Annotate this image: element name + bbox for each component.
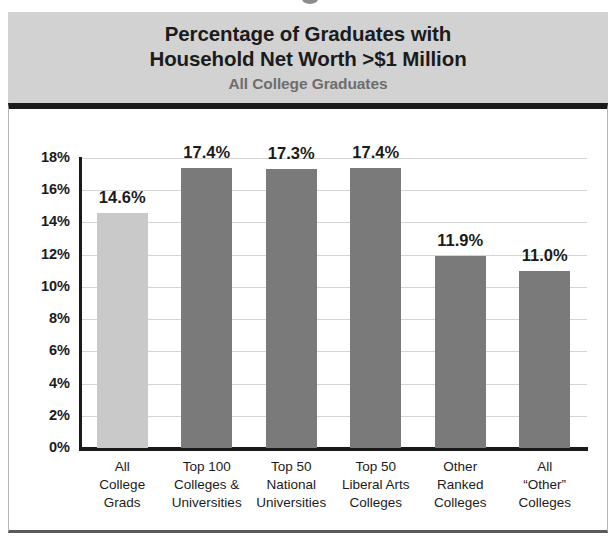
bar[interactable]: 11.9% — [435, 158, 486, 448]
chart-title-line2: Household Net Worth >$1 Million — [149, 47, 466, 70]
y-axis-tick-label: 18% — [8, 149, 70, 165]
y-axis-tick-label: 0% — [8, 439, 70, 455]
bar-value-label: 17.4% — [321, 143, 431, 162]
y-axis-tick-label: 12% — [8, 246, 70, 262]
x-axis-category-label: All “Other” Colleges — [489, 458, 601, 511]
bar[interactable]: 14.6% — [97, 158, 148, 448]
cropped-glyph-artifact — [302, 0, 318, 4]
chart-subtitle: All College Graduates — [229, 75, 388, 93]
bars-layer: 14.6%17.4%17.3%17.4%11.9%11.0% — [80, 158, 587, 448]
y-axis-tick-label: 8% — [8, 310, 70, 326]
y-axis-tick-label: 10% — [8, 278, 70, 294]
y-axis-tick-label: 4% — [8, 375, 70, 391]
bar-rect — [97, 213, 148, 448]
chart-title: Percentage of Graduates with Household N… — [149, 22, 466, 70]
bar-value-label: 14.6% — [67, 188, 177, 207]
bar-rect — [350, 168, 401, 448]
chart-title-line1: Percentage of Graduates with — [165, 22, 452, 45]
cropped-top-sliver — [0, 0, 616, 12]
bar-rect — [266, 169, 317, 448]
y-axis-tick-label: 14% — [8, 213, 70, 229]
bar-rect — [435, 256, 486, 448]
bar[interactable]: 17.4% — [350, 158, 401, 448]
chart-figure: Percentage of Graduates with Household N… — [0, 0, 616, 542]
bar-value-label: 11.0% — [490, 246, 600, 265]
y-axis-tick-label: 6% — [8, 342, 70, 358]
bar[interactable]: 17.4% — [181, 158, 232, 448]
y-axis-tick-label: 16% — [8, 181, 70, 197]
bar-rect — [181, 168, 232, 448]
chart-header-band: Percentage of Graduates with Household N… — [8, 12, 608, 103]
y-axis-tick-label: 2% — [8, 407, 70, 423]
bar[interactable]: 17.3% — [266, 158, 317, 448]
bar-rect — [519, 271, 570, 448]
bar[interactable]: 11.0% — [519, 158, 570, 448]
